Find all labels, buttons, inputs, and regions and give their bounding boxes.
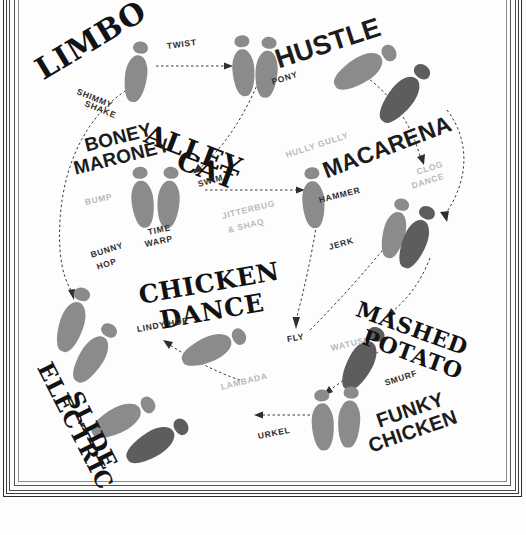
connector-macarena-fly bbox=[296, 215, 318, 320]
step-label-bunny: BUNNY bbox=[90, 241, 125, 260]
footprint-heel bbox=[392, 197, 409, 212]
footprint-sole bbox=[122, 54, 150, 104]
footprint-heel bbox=[313, 389, 329, 402]
footprint-heel bbox=[343, 386, 359, 399]
step-label-and-shaq: & SHAQ bbox=[227, 217, 265, 235]
step-label-jerk: JERK bbox=[328, 236, 355, 252]
step-label-lambada: LAMBADA bbox=[220, 372, 269, 392]
footprint-heel bbox=[131, 166, 147, 180]
footprint-sole bbox=[129, 180, 156, 229]
arrowhead-clog-dance bbox=[440, 211, 449, 222]
footprint-heel bbox=[229, 326, 248, 347]
step-label-bump: BUMP bbox=[84, 192, 113, 206]
footprint-sole bbox=[311, 403, 335, 451]
step-label-smurf: SMURF bbox=[384, 369, 419, 388]
footprint-sole bbox=[301, 180, 326, 228]
diagram-stage: LIMBO HUSTLE ALLEY CAT BONEY MARONEY MAC… bbox=[0, 0, 526, 535]
arrowhead-macarena-fly bbox=[293, 317, 301, 329]
step-label-hop: HOP bbox=[96, 257, 118, 272]
step-label-jitterbug: JITTERBUG bbox=[221, 199, 276, 221]
step-label-hammer: HAMMER bbox=[318, 186, 361, 205]
arrowhead-urkel bbox=[254, 412, 263, 419]
footprint-sole bbox=[231, 48, 256, 96]
footprint-sole bbox=[337, 400, 361, 448]
step-label-urkel: URKEL bbox=[257, 426, 291, 441]
footprint-heel bbox=[303, 167, 319, 180]
footprint-heel bbox=[132, 40, 149, 54]
footprint-heel bbox=[233, 35, 249, 48]
footprint-sole bbox=[121, 420, 180, 470]
footprint-sole bbox=[156, 180, 181, 228]
dance-step-poster: LIMBO HUSTLE ALLEY CAT BONEY MARONEY MAC… bbox=[0, 0, 526, 535]
step-label-fly: FLY bbox=[286, 332, 305, 343]
step-label-clog-dance: DANCE bbox=[411, 172, 446, 191]
footprint-sole bbox=[178, 328, 236, 372]
footprint-heel bbox=[72, 285, 92, 303]
step-label-twist: TWIST bbox=[166, 38, 197, 51]
arrowhead-lindy-hop bbox=[163, 340, 173, 349]
